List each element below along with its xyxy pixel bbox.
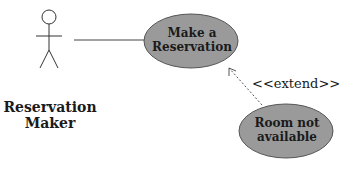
use-case-label-line: Room not [241,117,333,131]
use-case-label-make-reservation: Make a Reservation [146,27,238,55]
use-case-label-line: Make a [146,27,238,41]
use-case-label-line: Reservation [146,41,238,55]
actor-label: Reservation Maker [0,99,100,131]
use-case-label-room-not-available: Room not available [241,117,333,145]
use-case-label-line: available [241,131,333,145]
actor-stick-figure [36,10,62,68]
extend-stereotype-label: <<extend>> [252,77,340,92]
